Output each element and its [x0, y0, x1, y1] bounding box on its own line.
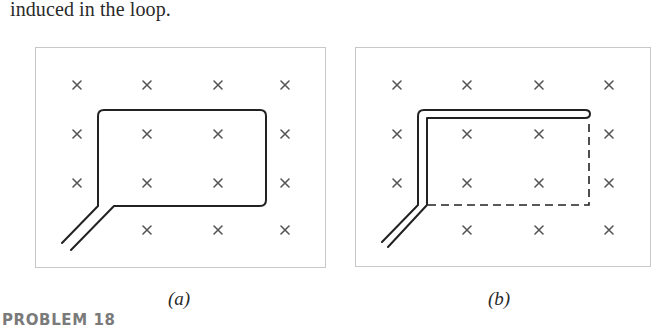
figure-panels [0, 0, 671, 334]
panel-a [36, 48, 326, 268]
field-marks-a [73, 81, 289, 234]
wire-doubled-b [382, 110, 590, 247]
dashed-former-outline-b [428, 120, 589, 205]
wire-loop-a [62, 110, 266, 250]
caption-b: (b) [488, 288, 510, 310]
caption-a: (a) [168, 288, 190, 310]
panel-a-frame [36, 48, 326, 268]
panel-b [356, 48, 651, 267]
problem-label: PROBLEM 18 [2, 311, 116, 329]
